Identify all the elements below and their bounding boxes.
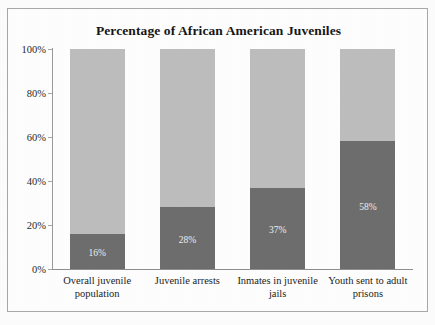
bar-segment-african-american: 37% [250,188,305,269]
y-axis-line [52,48,53,270]
y-axis-tick-label: 60% [27,132,46,143]
bar-segment-remainder [160,49,215,207]
chart-title: Percentage of African American Juveniles [8,23,429,39]
bar-group: 28% [160,49,215,269]
chart-figure: Percentage of African American Juveniles… [0,0,435,325]
bar-group: 58% [340,49,395,269]
bar-group: 16% [70,49,125,269]
x-axis-category-label: Youth sent to adult prisons [326,275,410,300]
bar-value-label: 28% [160,235,215,245]
bar-segment-african-american: 16% [70,234,125,269]
x-axis-category-label: Inmates in juvenile jails [236,275,320,300]
x-axis-category-label: Overall juvenile population [55,275,139,300]
y-axis-tick-label: 40% [27,176,46,187]
bar-group: 37% [250,49,305,269]
bar-segment-remainder [250,49,305,188]
bar-segment-african-american: 28% [160,207,215,269]
y-axis-tick-label: 20% [27,220,46,231]
y-axis-tick-mark [48,49,52,50]
bar-value-label: 37% [250,225,305,235]
bar-segment-remainder [70,49,125,234]
plot-area: 0%20%40%60%80%100% 16%28%37%58% Overall … [52,49,413,269]
x-axis-line [52,269,413,270]
y-axis-tick-mark [48,137,52,138]
bar-value-label: 16% [70,248,125,258]
y-axis-tick-label: 0% [32,264,46,275]
bar-stack: 58% [340,49,395,269]
bar-segment-remainder [340,49,395,141]
y-axis-tick-label: 100% [22,44,47,55]
bar-value-label: 58% [340,202,395,212]
bar-stack: 16% [70,49,125,269]
y-axis-tick-label: 80% [27,88,46,99]
bar-stack: 28% [160,49,215,269]
chart-frame: Percentage of African American Juveniles… [7,8,428,312]
x-axis-category-label: Juvenile arrests [145,275,229,288]
bar-segment-african-american: 58% [340,141,395,269]
bar-stack: 37% [250,49,305,269]
y-axis-tick-mark [48,269,52,270]
y-axis-tick-mark [48,181,52,182]
y-axis-tick-mark [48,93,52,94]
y-axis-tick-mark [48,225,52,226]
